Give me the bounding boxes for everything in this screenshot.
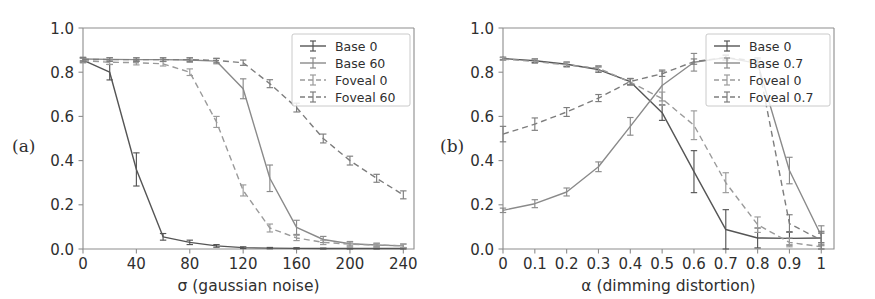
error-bar [627, 118, 633, 136]
y-tick-label: 0.6 [470, 108, 494, 126]
x-tick-label: 0.1 [523, 255, 547, 273]
x-tick-label: 240 [389, 255, 418, 273]
error-bar [320, 134, 326, 143]
y-tick-label: 0.4 [50, 152, 74, 170]
error-bar [563, 188, 569, 196]
legend-item[interactable]: Base 0.7 [714, 56, 803, 71]
x-tick-label: 0.2 [555, 255, 579, 273]
error-bar [754, 217, 760, 232]
error-bar [267, 80, 273, 88]
x-tick-label: 0.6 [682, 255, 706, 273]
x-tick-label: 0.5 [650, 255, 674, 273]
y-tick-label: 0.6 [50, 108, 74, 126]
legend-label: Base 60 [335, 56, 385, 71]
y-tick-label: 0.0 [470, 241, 494, 259]
legend-label: Foveal 0 [749, 73, 802, 88]
error-bar [595, 95, 601, 102]
chart-svg-a: 040801201602002400.00.20.40.60.81.0σ (ga… [0, 0, 437, 299]
legend-item[interactable]: Base 60 [300, 56, 385, 71]
chart-svg-b: 00.10.20.30.40.50.60.70.80.910.00.20.40.… [438, 0, 875, 299]
x-tick-label: 0.7 [714, 255, 738, 273]
legend-label: Base 0 [749, 39, 791, 54]
error-bar [373, 174, 379, 182]
x-axis-label: σ (gaussian noise) [178, 277, 320, 295]
error-bar [347, 156, 353, 165]
error-bar [723, 210, 729, 249]
legend-label: Foveal 60 [335, 90, 396, 105]
panel-tag: (a) [12, 136, 35, 156]
error-bar [659, 92, 665, 105]
x-tick-label: 0 [498, 255, 508, 273]
x-tick-label: 0.8 [746, 255, 770, 273]
x-tick-label: 0.4 [618, 255, 642, 273]
error-bar [659, 71, 665, 76]
legend-item[interactable]: Base 0 [714, 39, 791, 54]
y-tick-label: 1.0 [50, 20, 74, 38]
y-tick-label: 0.2 [470, 196, 494, 214]
error-bar [347, 248, 353, 249]
y-tick-label: 0.0 [50, 241, 74, 259]
x-tick-label: 40 [127, 255, 146, 273]
y-tick-label: 0.8 [50, 64, 74, 82]
legend-label: Base 0 [335, 39, 377, 54]
y-tick-label: 0.2 [50, 196, 74, 214]
error-bar [373, 248, 379, 249]
x-tick-label: 80 [180, 255, 199, 273]
x-tick-label: 120 [229, 255, 258, 273]
x-tick-label: 0.9 [778, 255, 802, 273]
error-bar [723, 173, 729, 193]
error-bar [106, 64, 112, 79]
error-bar [691, 111, 697, 140]
error-bar [563, 108, 569, 117]
chart-panel-a: 040801201602002400.00.20.40.60.81.0σ (ga… [0, 0, 437, 299]
y-tick-label: 0.8 [470, 64, 494, 82]
error-bar [320, 248, 326, 249]
x-tick-label: 0.3 [587, 255, 611, 273]
legend-label: Foveal 0.7 [749, 90, 813, 105]
error-bar [133, 153, 139, 186]
error-bar [691, 151, 697, 193]
y-tick-label: 0.4 [470, 152, 494, 170]
legend-label: Base 0.7 [749, 56, 803, 71]
x-axis-label: α (dimming distortion) [581, 277, 755, 295]
x-tick-label: 0 [78, 255, 88, 273]
chart-panel-b: 00.10.20.30.40.50.60.70.80.910.00.20.40.… [438, 0, 875, 299]
legend-item[interactable]: Base 0 [300, 39, 377, 54]
error-bar [400, 191, 406, 199]
x-tick-label: 200 [336, 255, 365, 273]
x-tick-label: 1 [816, 255, 826, 273]
panel-tag: (b) [440, 136, 464, 156]
y-tick-label: 1.0 [470, 20, 494, 38]
x-tick-label: 160 [282, 255, 311, 273]
legend-item[interactable]: Foveal 0 [714, 73, 802, 88]
legend-label: Foveal 0 [335, 73, 388, 88]
error-bar [786, 215, 792, 233]
legend-item[interactable]: Foveal 0 [300, 73, 388, 88]
figure-container: 040801201602002400.00.20.40.60.81.0σ (ga… [0, 0, 875, 299]
